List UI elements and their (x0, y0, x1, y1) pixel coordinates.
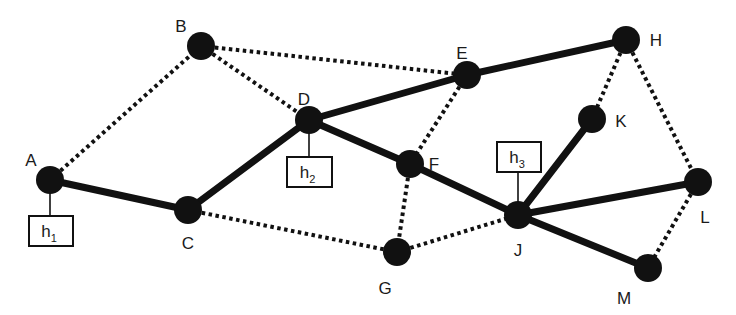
node-E (453, 61, 481, 89)
solid-edge-J-L (518, 182, 698, 215)
node-K (578, 105, 606, 133)
node-M (634, 254, 662, 282)
node-D (295, 106, 323, 134)
dotted-edge-H-L (626, 40, 698, 182)
solid-edges (50, 40, 698, 268)
dotted-edges (50, 40, 698, 268)
node-C (174, 196, 202, 224)
node-B (187, 32, 215, 60)
host-box-h2: h2 (287, 157, 332, 187)
host-box-h3: h3 (497, 142, 541, 172)
dotted-edge-L-M (648, 182, 698, 268)
node-label-D: D (298, 90, 310, 109)
solid-edge-E-H (467, 40, 626, 75)
node-H (612, 26, 640, 54)
host-box-h1: h1 (29, 216, 73, 246)
dotted-edge-C-G (188, 210, 397, 252)
node-G (383, 238, 411, 266)
node-label-M: M (617, 289, 631, 308)
node-label-K: K (615, 112, 627, 131)
node-label-G: G (378, 279, 391, 298)
dotted-edge-A-B (50, 46, 201, 180)
node-labels: ABCDEFGHJKLM (25, 17, 709, 308)
nodes (36, 26, 712, 282)
network-diagram: ABCDEFGHJKLM h1h2h3 (0, 0, 736, 315)
dotted-edge-B-E (201, 46, 467, 75)
node-label-E: E (456, 44, 467, 63)
node-label-L: L (700, 208, 709, 227)
node-label-C: C (182, 234, 194, 253)
dotted-edge-G-J (397, 215, 518, 252)
node-J (504, 201, 532, 229)
node-label-A: A (25, 151, 37, 170)
solid-edge-A-C (50, 180, 188, 210)
node-label-J: J (514, 241, 523, 260)
node-A (36, 166, 64, 194)
solid-edge-J-M (518, 215, 648, 268)
node-label-H: H (650, 31, 662, 50)
node-label-B: B (175, 17, 186, 36)
node-F (396, 150, 424, 178)
node-label-F: F (429, 155, 439, 174)
node-L (684, 168, 712, 196)
